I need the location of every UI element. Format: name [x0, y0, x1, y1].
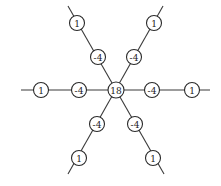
node-nw-out: 1	[70, 16, 85, 31]
node-label: 1	[151, 19, 157, 29]
node-w-out: 1	[34, 83, 49, 98]
node-label: -4	[75, 86, 84, 96]
node-label: 1	[189, 86, 195, 96]
center-node: 18	[108, 82, 124, 98]
node-nw-in: -4	[91, 50, 106, 65]
node-label: 1	[150, 154, 156, 164]
node-sw-in: -4	[90, 117, 105, 132]
node-label: -4	[93, 120, 102, 130]
node-sw-out: 1	[72, 151, 87, 166]
node-w-in: -4	[72, 83, 87, 98]
node-label: 18	[110, 86, 122, 96]
node-label: 1	[74, 19, 80, 29]
node-se-in: -4	[128, 117, 143, 132]
star-diagram: 18-41-41-41-41-41-41	[0, 0, 221, 186]
node-label: -4	[131, 120, 140, 130]
node-ne-out: 1	[147, 16, 162, 31]
node-label: -4	[148, 86, 157, 96]
node-label: -4	[94, 53, 103, 63]
node-ne-in: -4	[127, 50, 142, 65]
node-label: -4	[130, 53, 139, 63]
node-e-out: 1	[185, 83, 200, 98]
node-label: 1	[38, 86, 44, 96]
node-label: 1	[76, 154, 82, 164]
node-e-in: -4	[145, 83, 160, 98]
node-se-out: 1	[146, 151, 161, 166]
